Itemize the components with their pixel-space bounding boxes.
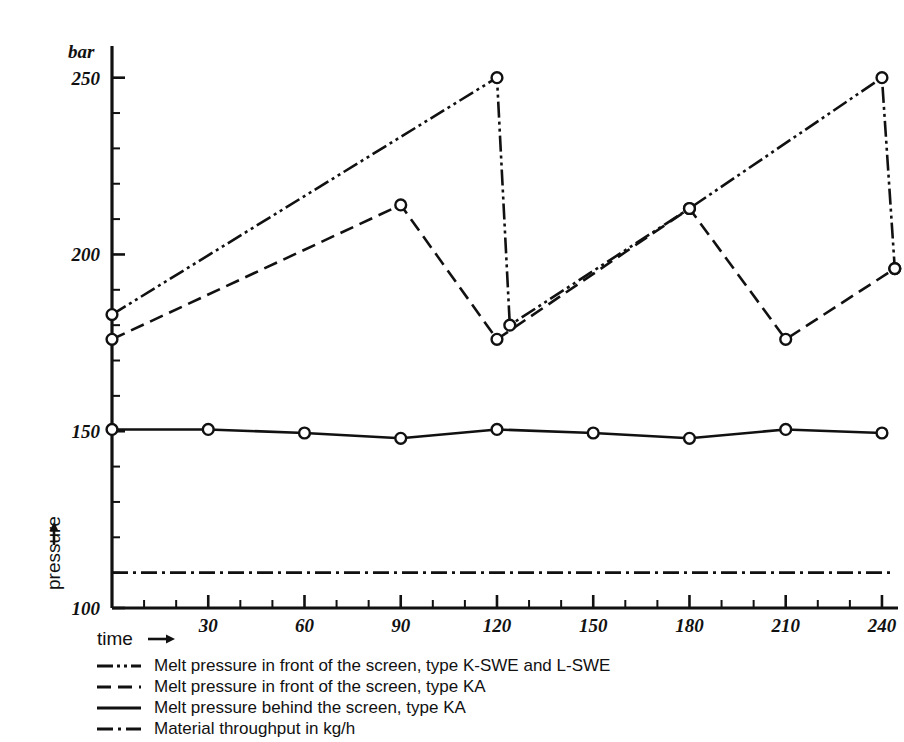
y-tick-label: 100 [72, 598, 101, 619]
legend-label: Melt pressure in front of the screen, ty… [154, 655, 610, 676]
legend-item: Material throughput in kg/h [96, 718, 796, 739]
data-point-marker [107, 309, 118, 320]
x-tick-label: 240 [867, 615, 897, 636]
data-point-marker [492, 334, 503, 345]
legend-line-sample-icon [96, 720, 142, 738]
data-point-marker [504, 320, 515, 331]
y-tick-label: 250 [71, 68, 101, 89]
data-point-marker [492, 424, 503, 435]
data-point-marker [395, 433, 406, 444]
legend-label: Material throughput in kg/h [154, 718, 355, 739]
chart-legend: Melt pressure in front of the screen, ty… [96, 655, 796, 739]
y-axis-unit-label: bar [68, 41, 95, 62]
legend-item: Melt pressure in front of the screen, ty… [96, 655, 796, 676]
chart-canvas: 306090120150180210240100150200250 bar pr… [0, 0, 904, 742]
data-point-marker [203, 424, 214, 435]
data-point-marker [492, 72, 503, 83]
pressure-vs-time-chart: 306090120150180210240100150200250 bar pr… [0, 0, 904, 742]
data-point-marker [588, 428, 599, 439]
x-tick-label: 90 [391, 615, 411, 636]
data-markers [107, 72, 901, 443]
data-point-marker [395, 200, 406, 211]
legend-label: Melt pressure behind the screen, type KA [154, 697, 466, 718]
x-tick-label: 210 [770, 615, 800, 636]
series-line-0 [112, 78, 895, 325]
data-point-marker [684, 433, 695, 444]
data-point-marker [107, 424, 118, 435]
data-point-marker [684, 203, 695, 214]
data-point-marker [877, 428, 888, 439]
data-point-marker [889, 263, 900, 274]
legend-item: Melt pressure in front of the screen, ty… [96, 676, 796, 697]
legend-item: Melt pressure behind the screen, type KA [96, 697, 796, 718]
data-point-marker [780, 334, 791, 345]
data-point-marker [299, 428, 310, 439]
legend-line-sample-icon [96, 657, 142, 675]
legend-line-sample-icon [96, 699, 142, 717]
data-point-marker [877, 72, 888, 83]
y-axis-name: pressure [43, 516, 64, 590]
x-axis-arrow-head [166, 635, 175, 644]
x-tick-label: 60 [295, 615, 315, 636]
x-tick-label: 30 [198, 615, 219, 636]
legend-label: Melt pressure in front of the screen, ty… [154, 676, 486, 697]
data-point-marker [780, 424, 791, 435]
y-tick-label: 200 [71, 244, 101, 265]
y-tick-label: 150 [72, 421, 101, 442]
data-point-marker [107, 334, 118, 345]
legend-line-sample-icon [96, 678, 142, 696]
x-tick-label: 180 [675, 615, 704, 636]
x-axis-name: time [97, 628, 175, 649]
x-tick-label: 120 [483, 615, 512, 636]
x-axis-name-text: time [97, 628, 133, 649]
x-tick-label: 150 [579, 615, 608, 636]
